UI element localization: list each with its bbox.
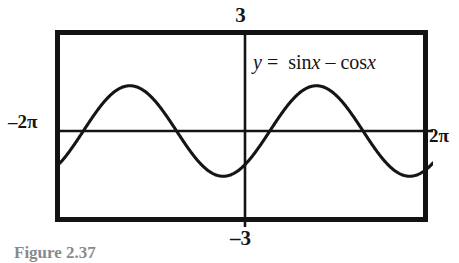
- window-xmin-label: –2π: [8, 112, 37, 131]
- equation-annotation: y = sinx – cosx: [253, 52, 376, 72]
- window-ymax-label: 3: [0, 5, 459, 26]
- equation-equals: =: [267, 51, 278, 73]
- equation-term2-function: cos: [340, 51, 367, 73]
- window-ymax-value: 3: [235, 3, 246, 27]
- equation-term1-variable: x: [312, 51, 321, 73]
- equation-lhs: y: [253, 51, 262, 73]
- plot-canvas: [60, 35, 433, 227]
- equation-term2-variable: x: [367, 51, 376, 73]
- equation-operator: –: [325, 51, 335, 73]
- window-ymin-value: –3: [230, 226, 251, 250]
- equation-term1-function: sin: [288, 51, 311, 73]
- figure-caption: Figure 2.37: [14, 243, 96, 263]
